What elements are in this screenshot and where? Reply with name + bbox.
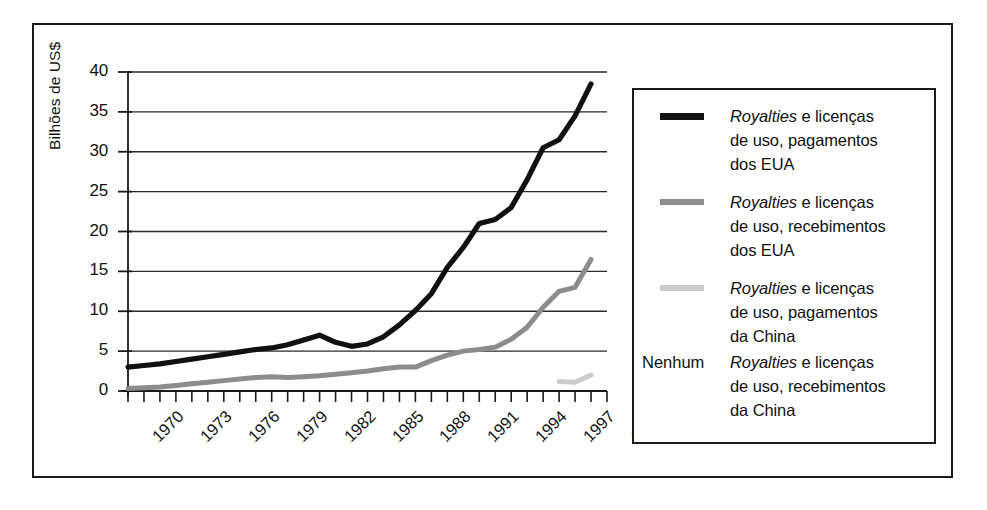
legend-swatch-wrap xyxy=(634,190,730,205)
chart-legend: Royalties e licençasde uso, pagamentosdo… xyxy=(632,88,936,444)
legend-swatch-wrap xyxy=(634,276,730,291)
legend-term-royalties: Royalties xyxy=(730,353,797,371)
legend-label-line: da China xyxy=(730,324,938,348)
legend-swatch-gray-icon xyxy=(660,199,704,205)
legend-label-line: dos EUA xyxy=(730,238,938,262)
legend-term-royalties: Royalties xyxy=(730,193,797,211)
legend-swatch-light-icon xyxy=(660,285,704,291)
y-tick-label: 25 xyxy=(62,181,108,201)
legend-item-2[interactable]: Royalties e licençasde uso, pagamentosda… xyxy=(634,276,938,348)
legend-label-line: de uso, pagamentos xyxy=(730,300,938,324)
y-tick-label: 20 xyxy=(62,221,108,241)
y-tick-label: 15 xyxy=(62,260,108,280)
legend-label-line: da China xyxy=(730,398,938,422)
y-tick-label: 10 xyxy=(62,300,108,320)
legend-item-3[interactable]: NenhumRoyalties e licençasde uso, recebi… xyxy=(634,350,938,422)
legend-item-1[interactable]: Royalties e licençasde uso, recebimentos… xyxy=(634,190,938,262)
legend-label-line: de uso, recebimentos xyxy=(730,214,938,238)
legend-label-line: de uso, pagamentos xyxy=(730,128,938,152)
legend-label-line: dos EUA xyxy=(730,152,938,176)
y-tick-label: 35 xyxy=(62,101,108,121)
legend-none-label: Nenhum xyxy=(634,350,730,373)
legend-item-label: Royalties e licençasde uso, pagamentosda… xyxy=(730,276,938,348)
y-tick-label: 5 xyxy=(62,340,108,360)
legend-swatch-wrap xyxy=(634,104,730,120)
legend-item-0[interactable]: Royalties e licençasde uso, pagamentosdo… xyxy=(634,104,938,176)
legend-term-royalties: Royalties xyxy=(730,279,797,297)
y-tick-label: 0 xyxy=(62,380,108,400)
y-tick-label: 40 xyxy=(62,61,108,81)
legend-label-line: de uso, recebimentos xyxy=(730,374,938,398)
legend-item-label: Royalties e licençasde uso, recebimentos… xyxy=(730,350,938,422)
y-tick-label: 30 xyxy=(62,141,108,161)
legend-term-royalties: Royalties xyxy=(730,107,797,125)
legend-item-label: Royalties e licençasde uso, recebimentos… xyxy=(730,190,938,262)
legend-item-label: Royalties e licençasde uso, pagamentosdo… xyxy=(730,104,938,176)
legend-swatch-black-icon xyxy=(660,113,704,120)
